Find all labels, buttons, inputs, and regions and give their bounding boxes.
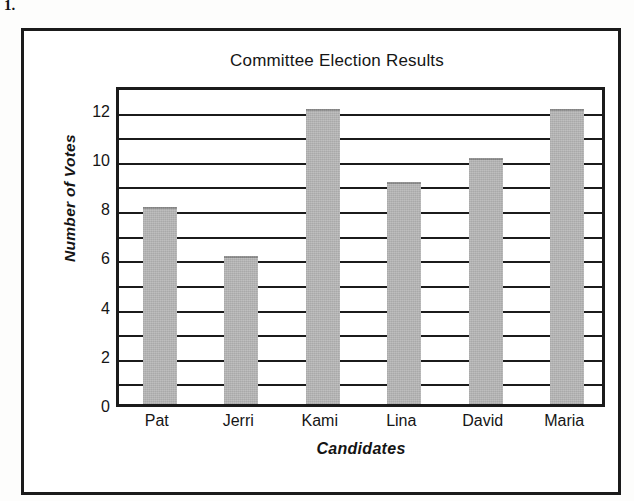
- gridline: [119, 237, 602, 239]
- y-tick-label-12: 12: [70, 103, 110, 121]
- y-tick-label-4: 4: [70, 300, 110, 318]
- gridline: [119, 187, 602, 189]
- chart-title: Committee Election Results: [24, 51, 618, 71]
- bar-top-edge: [469, 158, 503, 160]
- plot-area: [116, 87, 605, 407]
- bar-top-edge: [224, 256, 258, 258]
- y-axis-tick-labels: 024681012: [60, 87, 110, 407]
- gridline: [119, 163, 602, 165]
- x-axis-title: Candidates: [116, 440, 606, 458]
- x-tick-label-kami: Kami: [302, 412, 338, 430]
- x-tick-label-maria: Maria: [544, 412, 584, 430]
- x-tick-label-pat: Pat: [145, 412, 169, 430]
- y-tick-label-6: 6: [70, 250, 110, 268]
- bar-top-edge: [143, 207, 177, 209]
- bar-kami: [306, 109, 340, 404]
- x-tick-label-lina: Lina: [386, 412, 416, 430]
- y-tick-label-2: 2: [70, 349, 110, 367]
- bar-david: [469, 158, 503, 404]
- plot-inner: [119, 90, 602, 404]
- y-tick-label-8: 8: [70, 201, 110, 219]
- x-tick-label-david: David: [462, 412, 503, 430]
- bar-top-edge: [550, 109, 584, 111]
- x-tick-label-jerri: Jerri: [223, 412, 254, 430]
- bar-jerri: [224, 256, 258, 404]
- gridline: [119, 114, 602, 116]
- gridline: [119, 360, 602, 362]
- figure-frame: Committee Election Results Number of Vot…: [21, 28, 621, 495]
- gridline: [119, 335, 602, 337]
- bar-maria: [550, 109, 584, 404]
- bar-pat: [143, 207, 177, 404]
- gridline: [119, 212, 602, 214]
- question-number: 1.: [4, 0, 15, 14]
- gridline: [119, 311, 602, 313]
- bar-lina: [387, 182, 421, 404]
- bar-top-edge: [387, 182, 421, 184]
- gridline: [119, 261, 602, 263]
- x-axis-tick-labels: PatJerriKamiLinaDavidMaria: [116, 412, 605, 438]
- bar-top-edge: [306, 109, 340, 111]
- gridline: [119, 286, 602, 288]
- gridline: [119, 384, 602, 386]
- y-tick-label-10: 10: [70, 152, 110, 170]
- y-tick-label-0: 0: [70, 398, 110, 416]
- gridline: [119, 138, 602, 140]
